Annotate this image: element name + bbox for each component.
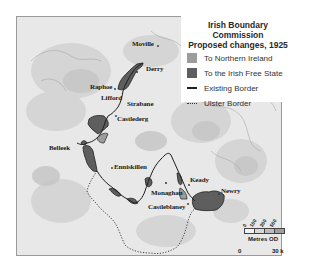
legend-label: Ulster Border bbox=[204, 99, 251, 108]
distance-scale-start: 0 bbox=[238, 248, 241, 254]
place-label-lifford: Lifford bbox=[101, 94, 122, 102]
place-label-derry: Derry bbox=[146, 65, 163, 73]
place-label-castleblaney: Castleblaney bbox=[148, 203, 185, 211]
dotted-line-icon bbox=[187, 103, 197, 104]
place-label-strabane: Strabane bbox=[127, 100, 153, 108]
legend-title-line2: Proposed changes, 1925 bbox=[187, 40, 289, 50]
elevation-caption: Metres OD bbox=[248, 236, 278, 242]
legend-item-existing-border: Existing Border bbox=[187, 81, 289, 95]
map-legend: Irish Boundary Commission Proposed chang… bbox=[181, 16, 291, 102]
legend-item-ulster-border: Ulster Border bbox=[187, 96, 289, 110]
place-label-enniskillen: Enniskillen bbox=[114, 163, 147, 171]
solid-line-icon bbox=[187, 87, 197, 89]
place-label-keady: Keady bbox=[190, 176, 209, 184]
elevation-scale-bar bbox=[244, 228, 285, 234]
place-label-monaghan: Monaghan bbox=[151, 189, 183, 197]
legend-item-to-irish-free-state: To the Irish Free State bbox=[187, 66, 289, 80]
place-label-raphoe: Raphoe bbox=[90, 83, 112, 91]
distance-scale-end: 30 k bbox=[272, 248, 284, 254]
legend-label: To Northern Ireland bbox=[204, 54, 272, 63]
place-label-belleek: Belleek bbox=[49, 144, 70, 152]
legend-item-to-northern-ireland: To Northern Ireland bbox=[187, 51, 289, 65]
legend-label: Existing Border bbox=[204, 84, 258, 93]
place-label-newry: Newry bbox=[221, 187, 240, 195]
place-label-castlederg: Castlederg bbox=[117, 115, 148, 123]
swatch-to-irish-free-state bbox=[187, 68, 197, 78]
swatch-to-northern-ireland bbox=[187, 53, 197, 63]
legend-title-line1: Irish Boundary Commission bbox=[187, 20, 289, 40]
legend-label: To the Irish Free State bbox=[204, 69, 283, 78]
place-label-moville: Moville bbox=[132, 40, 154, 48]
